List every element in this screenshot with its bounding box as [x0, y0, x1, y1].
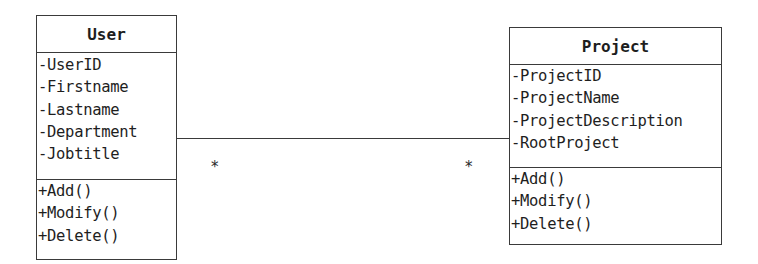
attribute: -Firstname [38, 76, 176, 98]
method: +Modify() [511, 190, 721, 212]
method: +Add() [511, 168, 721, 190]
attribute: -UserID [38, 54, 176, 76]
attribute: -RootProject [511, 132, 721, 154]
attribute: -ProjectName [511, 87, 721, 109]
multiplicity-project-end: * [465, 158, 473, 176]
attribute: -Lastname [38, 99, 176, 121]
methods-section: +Add() +Modify() +Delete() [37, 180, 176, 247]
class-project: Project -ProjectID -ProjectName -Project… [509, 27, 722, 245]
multiplicity-user-end: * [211, 158, 219, 176]
class-user: User -UserID -Firstname -Lastname -Depar… [36, 15, 177, 260]
attribute: -ProjectDescription [511, 110, 721, 132]
method: +Modify() [38, 202, 176, 224]
class-title: Project [510, 28, 721, 65]
attribute: -ProjectID [511, 65, 721, 87]
method: +Delete() [38, 225, 176, 247]
class-title: User [37, 16, 176, 53]
association-line [177, 138, 509, 139]
attributes-section: -ProjectID -ProjectName -ProjectDescript… [510, 65, 721, 168]
attributes-section: -UserID -Firstname -Lastname -Department… [37, 53, 176, 180]
attribute: -Jobtitle [38, 143, 176, 165]
attribute: -Department [38, 121, 176, 143]
methods-section: +Add() +Modify() +Delete() [510, 168, 721, 235]
method: +Add() [38, 180, 176, 202]
method: +Delete() [511, 213, 721, 235]
